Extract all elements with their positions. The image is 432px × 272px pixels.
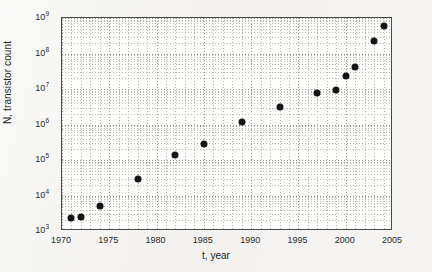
- data-point-1974: [96, 203, 103, 210]
- y-tick-mark-5: [61, 160, 62, 161]
- y-tick-label-8: 108: [35, 48, 49, 57]
- gridline-horizontal-8000000: [62, 92, 391, 93]
- gridline-vertical-2000: [346, 18, 347, 229]
- gridline-horizontal-2000000: [62, 114, 391, 115]
- y-tick-label-5: 105: [35, 155, 49, 164]
- data-point-1997: [314, 90, 321, 97]
- y-tick-label-6: 106: [35, 119, 49, 128]
- gridline-horizontal-800000000: [62, 21, 391, 22]
- y-axis-tick-labels: 103104105106107108109: [0, 17, 58, 230]
- gridline-vertical-1992: [270, 18, 271, 229]
- data-point-2001: [352, 63, 359, 70]
- x-tick-label-1975: 1975: [98, 236, 118, 245]
- gridline-horizontal-30000000: [62, 72, 391, 73]
- y-tick-label-7: 107: [35, 84, 49, 93]
- gridline-horizontal-500000000: [62, 29, 391, 30]
- gridline-horizontal-6000: [62, 203, 391, 204]
- gridline-horizontal-600000: [62, 132, 391, 133]
- gridline-vertical-2001: [355, 18, 356, 229]
- y-tick-mark-7: [61, 89, 62, 90]
- gridline-horizontal-90000000: [62, 55, 391, 56]
- gridline-horizontal-4000: [62, 210, 391, 211]
- gridline-vertical-2003: [374, 18, 375, 229]
- gridline-vertical-1978: [138, 18, 139, 229]
- gridline-horizontal-60000000: [62, 61, 391, 62]
- gridline-horizontal-70000: [62, 165, 391, 166]
- data-point-2000: [342, 72, 349, 79]
- gridline-horizontal-3000000: [62, 108, 391, 109]
- gridline-horizontal-2000: [62, 220, 391, 221]
- gridline-horizontal-40000000: [62, 68, 391, 69]
- y-tick-label-3: 103: [35, 226, 49, 235]
- y-tick-mark-8: [61, 54, 62, 55]
- gridline-vertical-2004: [384, 18, 385, 229]
- x-tick-label-2005: 2005: [382, 236, 402, 245]
- gridline-vertical-1991: [261, 18, 262, 229]
- gridline-vertical-1977: [128, 18, 129, 229]
- gridline-horizontal-300000: [62, 143, 391, 144]
- x-axis-tick-marks: [62, 18, 391, 229]
- gridline-vertical-1983: [185, 18, 186, 229]
- data-point-1978: [134, 176, 141, 183]
- gridline-horizontal-20000000: [62, 78, 391, 79]
- gridline-horizontal-10000000: [62, 89, 391, 90]
- y-tick-label-4: 104: [35, 190, 49, 199]
- data-point-1971: [68, 215, 75, 222]
- gridline-horizontal-80000000: [62, 57, 391, 58]
- gridline-vertical-1970: [62, 18, 63, 229]
- gridline-horizontal-100000000: [62, 54, 391, 55]
- gridline-horizontal-6000000: [62, 97, 391, 98]
- gridline-vertical-1990: [251, 18, 252, 229]
- gridline-vertical-1982: [175, 18, 176, 229]
- gridline-vertical-1986: [213, 18, 214, 229]
- gridline-vertical-1972: [81, 18, 82, 229]
- y-tick-label-9: 109: [35, 13, 49, 22]
- gridline-vertical-1973: [90, 18, 91, 229]
- gridline-horizontal-900000: [62, 126, 391, 127]
- x-tick-label-2000: 2000: [335, 236, 355, 245]
- gridline-horizontal-10000: [62, 196, 391, 197]
- gridline-vertical-2002: [365, 18, 366, 229]
- gridline-horizontal-100000: [62, 160, 391, 161]
- x-tick-label-1995: 1995: [287, 236, 307, 245]
- gridline-horizontal-200000000: [62, 43, 391, 44]
- gridline-vertical-1981: [166, 18, 167, 229]
- y-tick-mark-6: [61, 125, 62, 126]
- figure-canvas: N, transistor count t, year 103104105106…: [0, 0, 432, 272]
- gridline-vertical-1975: [109, 18, 110, 229]
- gridline-horizontal-500000: [62, 135, 391, 136]
- gridline-horizontal-600000000: [62, 26, 391, 27]
- x-axis-title: t, year: [0, 250, 432, 261]
- gridline-horizontal-5000: [62, 206, 391, 207]
- gridline-horizontal-4000000: [62, 103, 391, 104]
- gridline-vertical-1994: [289, 18, 290, 229]
- data-point-2004: [380, 23, 387, 30]
- gridline-vertical-1976: [119, 18, 120, 229]
- gridline-horizontal-700000: [62, 130, 391, 131]
- plot-area: [61, 17, 392, 230]
- gridline-horizontal-30000: [62, 179, 391, 180]
- gridline-horizontal-700000000: [62, 23, 391, 24]
- gridline-horizontal-1000000: [62, 125, 391, 126]
- gridline-vertical-1999: [336, 18, 337, 229]
- gridline-horizontal-5000000: [62, 100, 391, 101]
- gridline-vertical-1996: [308, 18, 309, 229]
- data-point-1999: [333, 86, 340, 93]
- gridline-vertical-1985: [204, 18, 205, 229]
- gridline-horizontal-70000000: [62, 59, 391, 60]
- data-point-1993: [276, 104, 283, 111]
- y-axis-tick-marks: [62, 18, 391, 229]
- x-tick-label-1970: 1970: [51, 236, 71, 245]
- x-tick-label-1990: 1990: [240, 236, 260, 245]
- gridline-vertical-1979: [147, 18, 148, 229]
- gridline-horizontal-40000: [62, 174, 391, 175]
- data-point-layer: [62, 18, 391, 229]
- gridline-horizontal-60000: [62, 168, 391, 169]
- y-tick-mark-4: [61, 196, 62, 197]
- gridline-horizontal-50000: [62, 171, 391, 172]
- gridline-horizontal-90000: [62, 162, 391, 163]
- gridline-horizontal-1000000000: [62, 18, 391, 19]
- horizontal-gridlines: [62, 18, 391, 229]
- x-tick-label-1980: 1980: [146, 236, 166, 245]
- gridline-horizontal-9000: [62, 197, 391, 198]
